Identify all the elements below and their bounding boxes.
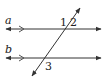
line-b-label: b <box>5 43 12 56</box>
angle-3-label: 3 <box>45 60 52 73</box>
angle-2-label: 2 <box>70 16 77 29</box>
line-a-label: a <box>5 14 12 27</box>
line-b <box>6 55 101 61</box>
diagram-canvas: a b 1 2 3 <box>0 0 111 81</box>
line-a <box>6 26 101 32</box>
angle-1-label: 1 <box>60 16 67 29</box>
